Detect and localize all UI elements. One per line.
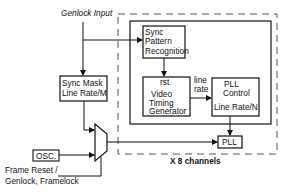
block-diagram: Genlock Input Sync Pattern Recognition r… — [0, 0, 289, 196]
genlock-input-label: Genlock Input — [61, 8, 113, 18]
sync-pattern-recognition-block: Sync Pattern Recognition — [143, 26, 189, 58]
svg-text:rst: rst — [160, 77, 170, 87]
svg-text:Pattern: Pattern — [145, 36, 172, 46]
pll-block: PLL — [218, 136, 242, 148]
svg-text:OSC.: OSC. — [36, 151, 56, 161]
sync-mask-to-mux-wire — [84, 101, 94, 130]
frame-reset-label: Frame Reset / — [5, 165, 58, 175]
pll-control-block: PLL Control Line Rate/N — [212, 78, 259, 116]
svg-text:Line Rate/M: Line Rate/M — [62, 88, 107, 98]
svg-text:PLL: PLL — [222, 137, 237, 147]
line-rate-label-2: rate — [194, 84, 209, 94]
svg-text:Recognition: Recognition — [145, 46, 189, 56]
sync-mask-block: Sync Mask Line Rate/M — [60, 76, 107, 101]
svg-text:Line Rate/N: Line Rate/N — [214, 102, 258, 112]
video-timing-generator-block: rst Video Timing Generator — [143, 77, 190, 116]
svg-text:Sync Mask: Sync Mask — [62, 78, 103, 88]
svg-text:Control: Control — [223, 88, 250, 98]
frame-reset-label-2: Genlock, Framelock — [5, 176, 80, 186]
mux-selector — [95, 124, 107, 161]
svg-text:Generator: Generator — [149, 106, 187, 116]
channel-count-label: X 8 channels — [170, 156, 221, 166]
oscillator-block: OSC. — [33, 150, 59, 161]
